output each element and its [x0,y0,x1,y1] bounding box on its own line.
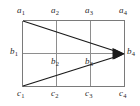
node-label-b4: b4 [127,47,135,56]
node-label-b3: b3 [85,57,93,66]
arrow-a1-b4-shaft [23,21,118,52]
node-label-a1: a1 [17,6,25,15]
arrow-head-merged [113,48,125,60]
figure-canvas: a1 a2 a3 a4 b1 b2 b3 b4 c1 c2 c3 c4 [0,0,140,106]
grid-horizontal-lines [23,21,125,87]
arrow-c1-b4-shaft [23,56,118,86]
node-label-c1: c1 [17,89,24,98]
node-label-a3: a3 [85,6,93,15]
node-label-b2: b2 [51,57,59,66]
node-label-a2: a2 [51,6,59,15]
node-label-c2: c2 [51,89,58,98]
arrow-c1-b4 [23,54,125,86]
node-label-b1: b1 [10,47,18,56]
node-label-c3: c3 [85,89,92,98]
node-label-c4: c4 [119,89,126,98]
arrow-a1-b4 [23,21,125,54]
arrow-convergence-point [113,48,125,60]
node-label-a4: a4 [119,6,127,15]
